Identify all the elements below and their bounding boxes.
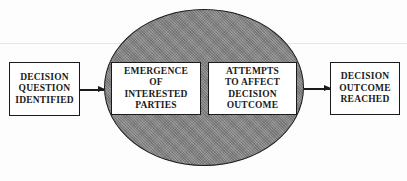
box-line: DECISION: [341, 71, 390, 83]
box-line: QUESTION: [19, 83, 71, 95]
box-line: DECISION: [228, 89, 277, 101]
box-line: OUTCOME: [227, 100, 279, 112]
box-line: PARTIES: [135, 100, 177, 112]
attempts-to-affect-decision-outcome-box: ATTEMPTS TO AFFECT DECISION OUTCOME: [208, 62, 297, 115]
emergence-of-interested-parties-box: EMERGENCE OF INTERESTED PARTIES: [111, 62, 201, 115]
diagram-canvas: DECISION QUESTION IDENTIFIED EMERGENCE O…: [0, 0, 407, 181]
box-line: REACHED: [341, 94, 390, 106]
box-line: ATTEMPTS: [226, 66, 279, 78]
box-line: OF: [149, 77, 163, 89]
arrow-start-to-ellipse: [80, 89, 104, 91]
box-line: OUTCOME: [339, 83, 391, 95]
box-line: TO AFFECT: [225, 77, 280, 89]
decision-question-identified-box: DECISION QUESTION IDENTIFIED: [9, 62, 80, 116]
box-line: IDENTIFIED: [15, 95, 74, 107]
box-line: EMERGENCE: [124, 66, 188, 78]
arrow-ellipse-to-end: [304, 88, 330, 90]
decision-outcome-reached-box: DECISION OUTCOME REACHED: [330, 62, 400, 115]
box-line: DECISION: [20, 72, 69, 84]
box-line: INTERESTED: [124, 89, 187, 101]
